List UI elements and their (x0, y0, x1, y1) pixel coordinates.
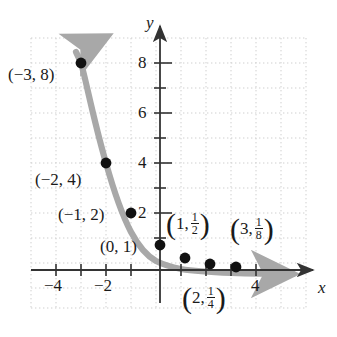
y-tick-label-6: 6 (138, 104, 147, 121)
data-point (155, 240, 166, 251)
data-point (101, 158, 112, 169)
right-paren: ) (264, 218, 274, 240)
point-label-0-1: (0, 1) (100, 238, 137, 255)
axis-lines (31, 26, 313, 303)
point-label-2-one-quarter: ( 2, 1 4 ) (182, 285, 226, 311)
x-tick-label-4: 4 (251, 277, 260, 294)
point-label-neg3-8: (−3, 8) (8, 66, 54, 83)
point-label-3-one-eighth: ( 3, 1 8 ) (230, 216, 274, 242)
fraction-one-eighth: 1 8 (255, 216, 263, 241)
data-point (126, 208, 137, 219)
left-paren: ( (230, 218, 240, 240)
x-tick-label-neg2: −2 (94, 277, 112, 294)
graph-figure: y x −4 −2 4 8 6 4 2 (−3, 8) (−2, 4) (−1,… (0, 0, 337, 337)
y-tick-label-4: 4 (138, 154, 147, 171)
data-point (76, 58, 87, 69)
right-paren: ) (200, 213, 210, 235)
coord-x: 3, (240, 220, 253, 237)
data-point (231, 262, 242, 273)
left-paren: ( (166, 213, 176, 235)
y-tick-label-8: 8 (138, 54, 147, 71)
data-point (180, 253, 191, 264)
x-axis-label: x (318, 279, 326, 296)
y-tick-label-2: 2 (138, 204, 147, 221)
data-point (205, 259, 216, 270)
point-label-1-one-half: ( 1, 1 2 ) (166, 211, 210, 237)
y-axis-label: y (146, 14, 154, 31)
coord-x: 1, (176, 215, 189, 232)
fraction-one-quarter: 1 4 (207, 285, 215, 310)
coord-x: 2, (192, 289, 205, 306)
x-tick-label-neg4: −4 (44, 277, 62, 294)
fraction-one-half: 1 2 (191, 211, 199, 236)
right-paren: ) (216, 287, 226, 309)
point-label-neg2-4: (−2, 4) (35, 171, 81, 188)
left-paren: ( (182, 287, 192, 309)
point-label-neg1-2: (−1, 2) (58, 206, 104, 223)
